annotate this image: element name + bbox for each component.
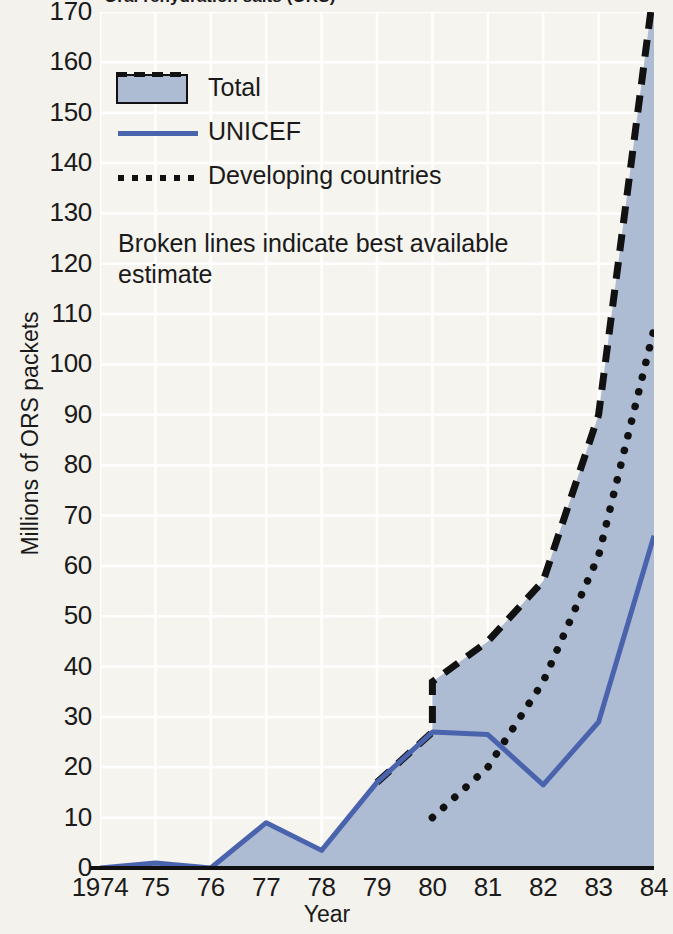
x-axis-tick: 75 [129, 872, 181, 902]
legend-label-developing: Developing countries [208, 158, 441, 192]
unicef-line-icon [118, 131, 198, 136]
y-axis-tick: 10 [64, 804, 92, 830]
x-axis-tick: 84 [628, 872, 673, 902]
y-axis-tick-labels: 1701601501401301201101009080706050403020… [0, 0, 96, 934]
legend: Total UNICEF Developing countries [116, 68, 516, 200]
x-axis-tick: 79 [351, 872, 403, 902]
x-axis-tick: 76 [185, 872, 237, 902]
legend-label-unicef: UNICEF [208, 114, 301, 148]
x-axis-tick: 83 [573, 872, 625, 902]
y-axis-tick: 40 [64, 653, 92, 679]
y-axis-tick: 150 [50, 99, 92, 125]
y-axis-tick: 60 [64, 552, 92, 578]
y-axis-tick: 50 [64, 602, 92, 628]
estimate-annotation: Broken lines indicate best available est… [118, 228, 538, 290]
y-axis-tick: 100 [50, 350, 92, 376]
x-axis-line [90, 866, 654, 870]
legend-item-unicef: UNICEF [116, 112, 516, 156]
developing-dotted-line-icon [118, 175, 200, 181]
legend-item-total: Total [116, 68, 516, 112]
total-swatch-icon [116, 74, 188, 104]
x-axis-tick: 80 [406, 872, 458, 902]
chart-title: Oral rehydration salts (ORS) [104, 0, 644, 7]
y-axis-tick: 70 [64, 502, 92, 528]
legend-item-developing: Developing countries [116, 156, 516, 200]
y-axis-title: Millions of ORS packets [17, 254, 44, 614]
y-axis-tick: 160 [50, 48, 92, 74]
y-axis-tick: 120 [50, 250, 92, 276]
total-dashed-edge-icon [116, 72, 188, 77]
x-axis-tick: 81 [462, 872, 514, 902]
y-axis-tick: 110 [51, 300, 92, 326]
x-axis-tick: 78 [296, 872, 348, 902]
x-axis-tick: 82 [517, 872, 569, 902]
y-axis-tick: 30 [64, 703, 92, 729]
legend-label-total: Total [208, 70, 261, 104]
y-axis-tick: 90 [64, 401, 92, 427]
y-axis-tick: 140 [50, 149, 92, 175]
x-axis-title: Year [0, 901, 654, 928]
y-axis-tick: 130 [50, 199, 92, 225]
x-axis-tick: 77 [240, 872, 292, 902]
y-axis-tick: 80 [64, 451, 92, 477]
y-axis-tick: 170 [50, 0, 92, 24]
y-axis-tick: 20 [64, 753, 92, 779]
